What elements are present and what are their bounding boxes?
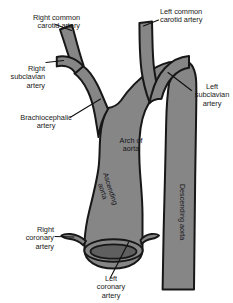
aortic-arch-diagram: Right common carotid artery Left common … <box>0 0 233 303</box>
label-right-subclavian-artery: Right subclavian artery <box>2 65 45 90</box>
label-brachiocephalic-artery: Brachiocephalic artery <box>18 114 74 131</box>
aorta-vessel-group <box>57 22 197 290</box>
label-left-common-carotid-artery: Left common carotid artery <box>160 8 230 25</box>
aortic-root-opening <box>91 244 137 258</box>
leader-right-coronary <box>55 237 74 238</box>
label-descending-aorta: Descending aorta <box>178 181 186 243</box>
label-right-coronary-artery: Right coronary artery <box>8 226 54 251</box>
label-left-coronary-artery: Left coronary artery <box>84 275 138 300</box>
label-right-common-carotid-artery: Right common carotid artery <box>8 14 80 31</box>
label-arch-of-aorta: Arch of aorta <box>108 137 154 153</box>
right-coronary-artery-shape <box>61 234 86 245</box>
label-left-subclavian-artery: Left subclavian artery <box>192 83 232 108</box>
